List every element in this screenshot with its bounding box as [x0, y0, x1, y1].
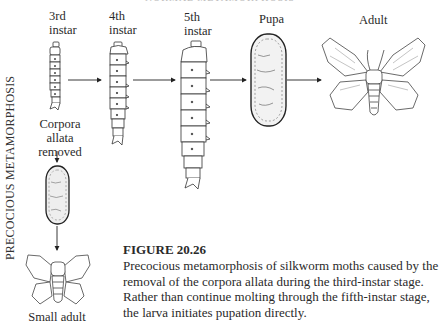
- small-adult-moth-icon: [26, 255, 90, 304]
- larva-5th-instar-icon: [181, 41, 210, 189]
- caption-text: Precocious metamorphosis of silkworm mot…: [123, 258, 445, 320]
- adult-moth-icon: [322, 38, 425, 115]
- larva-3rd-instar-icon: [50, 42, 60, 110]
- larva-4th-instar-icon: [110, 42, 129, 145]
- pupa-icon: [251, 34, 286, 126]
- figure-number: FIGURE 20.26: [123, 242, 445, 258]
- figure-caption: FIGURE 20.26 Precocious metamorphosis of…: [123, 242, 445, 320]
- small-pupa-icon: [46, 166, 69, 224]
